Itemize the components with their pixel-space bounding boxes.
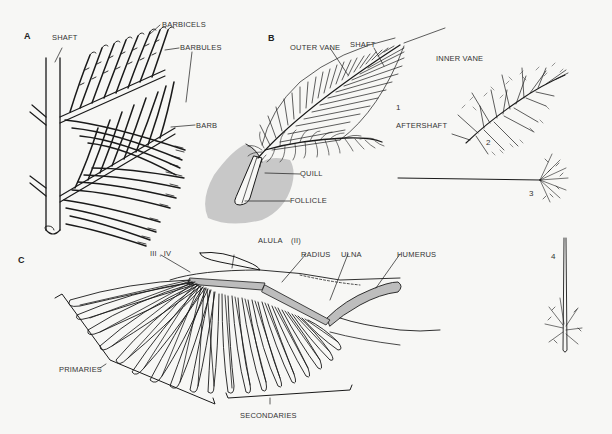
label-primaries: PRIMARIES xyxy=(59,366,102,374)
feather-number-4: 4 xyxy=(551,253,555,261)
label-inner-vane: INNER VANE xyxy=(436,55,483,63)
label-aftershaft: AFTERSHAFT xyxy=(396,122,447,130)
panel-label-b: B xyxy=(268,34,275,43)
label-barb: BARB xyxy=(196,122,217,130)
panel-a-drawing xyxy=(30,25,195,246)
feather-2-drawing xyxy=(452,63,568,155)
label-follicle: FOLLICLE xyxy=(290,197,327,205)
panel-label-c: C xyxy=(18,256,25,265)
label-radius: RADIUS xyxy=(301,251,331,259)
label-secondaries: SECONDARIES xyxy=(240,412,297,420)
label-ulna: ULNA xyxy=(341,251,362,259)
feather-number-3: 3 xyxy=(529,190,533,198)
label-shaft-b: SHAFT xyxy=(350,41,376,49)
feather-3-drawing xyxy=(398,154,568,202)
label-quill: QUILL xyxy=(300,170,323,178)
label-barbicels: BARBICELS xyxy=(162,21,206,29)
label-outer-vane: OUTER VANE xyxy=(290,44,340,52)
label-shaft-a: SHAFT xyxy=(52,34,78,42)
label-digits-iii-iv: III , IV xyxy=(150,250,171,258)
panel-c-drawing xyxy=(55,252,440,404)
label-alula-digit: (II) xyxy=(291,237,301,245)
feather-number-2: 2 xyxy=(486,139,490,147)
panel-label-a: A xyxy=(24,32,31,41)
feather-anatomy-diagram: A B C SHAFT BARBICELS BARBULES BARB OUTE… xyxy=(0,0,612,434)
feather-number-1: 1 xyxy=(396,104,400,112)
label-humerus: HUMERUS xyxy=(397,251,436,259)
label-barbules: BARBULES xyxy=(180,44,222,52)
label-alula: ALULA xyxy=(258,237,283,245)
